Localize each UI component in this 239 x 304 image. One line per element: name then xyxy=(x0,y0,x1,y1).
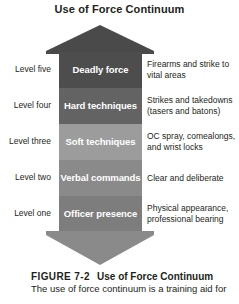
description-text: Firearms and strike to vital areas xyxy=(147,59,239,80)
caption-heading: FIGURE 7-2Use of Force Continuum xyxy=(31,271,236,282)
continuum-band[interactable]: Deadly force xyxy=(59,52,142,88)
level-row: Level two xyxy=(0,160,57,196)
continuum-band[interactable]: Verbal commands xyxy=(59,160,142,196)
continuum-band[interactable]: Soft techniques xyxy=(59,124,142,160)
caption-body-text: The use of force continuum is a training… xyxy=(31,283,236,295)
description-text: Strikes and takedowns (tasers and batons… xyxy=(147,95,239,116)
description-row: Physical appearance, professional bearin… xyxy=(147,196,239,232)
band-label: Verbal commands xyxy=(61,173,141,183)
description-text: OC spray, comealongs, and wrist locks xyxy=(147,131,239,152)
figure-caption: FIGURE 7-2Use of Force Continuum The use… xyxy=(31,271,236,295)
arrow-head-down-icon xyxy=(46,231,154,265)
level-label: Level five xyxy=(15,65,51,75)
continuum-shaft: Deadly force Hard techniques Soft techni… xyxy=(59,52,142,232)
band-label: Hard techniques xyxy=(64,101,137,111)
caption-figure-number: FIGURE 7-2 xyxy=(31,271,90,282)
description-row: OC spray, comealongs, and wrist locks xyxy=(147,124,239,160)
description-text: Physical appearance, professional bearin… xyxy=(147,203,239,224)
level-row: Level five xyxy=(0,52,57,88)
description-row: Strikes and takedowns (tasers and batons… xyxy=(147,88,239,124)
continuum-band[interactable]: Hard techniques xyxy=(59,88,142,124)
description-text: Clear and deliberate xyxy=(147,173,224,184)
description-row: Firearms and strike to vital areas xyxy=(147,52,239,88)
level-row: Level one xyxy=(0,196,57,232)
level-label: Level two xyxy=(15,173,51,183)
level-label: Level one xyxy=(14,209,51,219)
level-row: Level three xyxy=(0,124,57,160)
figure-title: Use of Force Continuum xyxy=(0,3,239,15)
level-label: Level three xyxy=(9,137,51,147)
level-label: Level four xyxy=(14,101,51,111)
level-row: Level four xyxy=(0,88,57,124)
band-label: Deadly force xyxy=(73,65,129,75)
description-column: Firearms and strike to vital areas Strik… xyxy=(147,52,239,232)
level-labels-column: Level five Level four Level three Level … xyxy=(0,52,57,232)
description-row: Clear and deliberate xyxy=(147,160,239,196)
continuum-band[interactable]: Officer presence xyxy=(59,196,142,232)
band-label: Officer presence xyxy=(64,209,137,219)
caption-figure-name: Use of Force Continuum xyxy=(97,271,213,282)
use-of-force-continuum-diagram: Deadly force Hard techniques Soft techni… xyxy=(0,22,239,268)
arrow-head-up-icon xyxy=(46,25,154,54)
band-label: Soft techniques xyxy=(66,137,136,147)
